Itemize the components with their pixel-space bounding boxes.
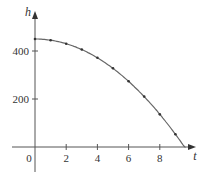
data-point [143, 95, 146, 98]
x-tick-label: 2 [63, 152, 69, 164]
data-point [34, 38, 37, 41]
y-tick-label: 400 [13, 45, 30, 57]
data-point [49, 39, 52, 42]
y-tick-label: 200 [13, 93, 30, 105]
data-point [127, 80, 130, 83]
axes [12, 11, 196, 172]
data-point [65, 43, 68, 46]
height-curve [35, 39, 185, 147]
y-axis-label: h [25, 5, 31, 19]
x-tick-label: 6 [126, 152, 132, 164]
height-vs-time-chart: 02468200400 ht [0, 0, 209, 178]
data-point [81, 48, 84, 51]
data-point [159, 113, 162, 116]
data-point [96, 56, 99, 59]
data-curve [35, 39, 185, 147]
x-tick-label: 0 [26, 152, 32, 164]
data-point [174, 133, 177, 136]
axis-labels: ht [25, 5, 197, 163]
data-point [112, 67, 115, 70]
x-axis-label: t [193, 149, 197, 163]
x-tick-label: 8 [157, 152, 163, 164]
data-markers [34, 38, 177, 136]
y-axis-arrow-icon [32, 11, 38, 19]
x-tick-label: 4 [95, 152, 101, 164]
